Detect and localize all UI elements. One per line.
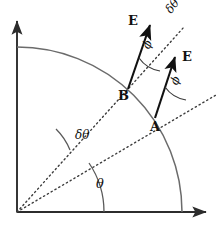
physics-diagram-figure: E δθ ϕ E ϕ B A δθ θ bbox=[0, 0, 222, 228]
theta-label: θ bbox=[96, 177, 104, 190]
point-a-label: A bbox=[150, 120, 160, 133]
field-vector-label-lower: E bbox=[182, 50, 192, 63]
delta-theta-angle-arc bbox=[56, 129, 70, 150]
diagram-canvas bbox=[0, 0, 222, 228]
dotted-radial-line-theta bbox=[17, 95, 216, 212]
delta-theta-label-middle: δθ bbox=[75, 129, 89, 141]
point-b-label: B bbox=[118, 89, 129, 102]
phi-angle-arc-at-A bbox=[165, 87, 186, 100]
field-vector-arrow-at-B bbox=[128, 25, 150, 89]
field-vector-label-upper: E bbox=[128, 14, 138, 27]
